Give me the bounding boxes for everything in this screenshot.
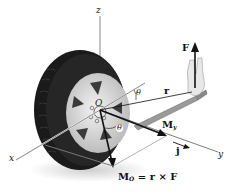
moment-My-symbol: M (162, 119, 173, 130)
moment-My-subscript: y (173, 123, 177, 130)
moment-My-label: My (162, 120, 177, 130)
unit-vector-j-label: j (176, 146, 180, 156)
moment-equation-lhs: M (118, 171, 129, 182)
z-axis-label: z (96, 6, 101, 15)
tire (34, 50, 130, 170)
force-label: F (182, 43, 189, 53)
moment-diagram: z x y O F r θ θ My j MO = r × F (0, 0, 236, 194)
x-axis-label: x (9, 154, 14, 163)
moment-equation-sub: O (129, 175, 134, 182)
y-axis-label: y (218, 150, 223, 159)
diagram-graphics (0, 0, 236, 194)
theta-label-upper: θ (136, 89, 141, 97)
theta-label-lower: θ (116, 124, 123, 132)
origin-label: O (95, 99, 102, 108)
hand (187, 58, 204, 96)
moment-equation: MO = r × F (118, 172, 177, 182)
r-label: r (164, 86, 169, 96)
moment-equation-rhs: = r × F (138, 171, 178, 182)
